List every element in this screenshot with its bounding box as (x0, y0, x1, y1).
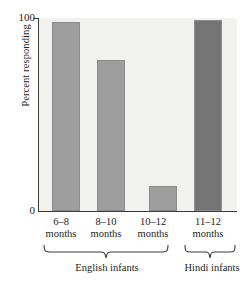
y-axis-tick-100: 100 (8, 11, 35, 23)
plot-area (39, 18, 237, 211)
x-axis-category-label-3: 10–12 months (131, 216, 175, 239)
x-axis-category-label-2: 8–10 months (85, 216, 127, 239)
y-axis-line (38, 18, 39, 212)
brace-hindi-infants (183, 243, 239, 261)
category-range-4: 11–12 (186, 216, 230, 228)
brace-english-infants (42, 243, 172, 261)
category-range-1: 6–8 (40, 216, 82, 228)
x-axis-line (38, 211, 237, 212)
group-label-english-infants: English infants (42, 262, 172, 273)
x-axis-category-label-1: 6–8 months (40, 216, 82, 239)
bar-chart-figure: Percent responding 100 0 6–8 months 8–10… (0, 0, 250, 286)
category-unit-4: months (186, 228, 230, 240)
category-unit-1: months (40, 228, 82, 240)
category-range-3: 10–12 (131, 216, 175, 228)
category-range-2: 8–10 (85, 216, 127, 228)
bar-2 (97, 60, 125, 211)
x-axis-category-label-4: 11–12 months (186, 216, 230, 239)
bar-1 (52, 22, 80, 211)
bar-4 (194, 20, 222, 211)
y-axis-tick-0: 0 (8, 204, 35, 216)
bar-3 (149, 186, 177, 211)
group-label-hindi-infants: Hindi infants (178, 262, 246, 273)
category-unit-3: months (131, 228, 175, 240)
category-unit-2: months (85, 228, 127, 240)
